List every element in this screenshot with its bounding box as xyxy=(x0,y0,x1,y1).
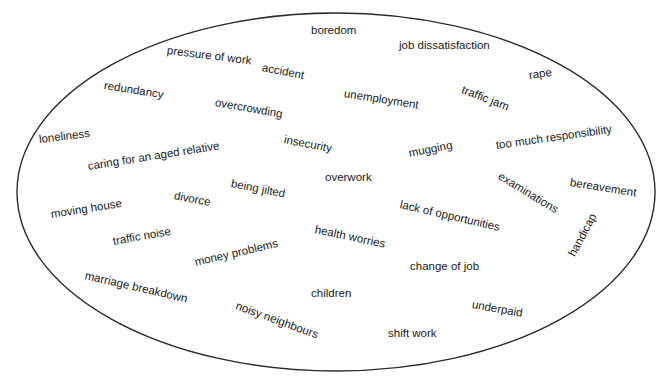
ellipse-outline xyxy=(0,0,671,383)
stress-label: change of job xyxy=(410,261,479,273)
stress-causes-diagram: boredompressure of workjob dissatisfacti… xyxy=(0,0,671,383)
stress-label: overwork xyxy=(325,172,372,184)
ellipse-shape xyxy=(17,13,655,371)
stress-label: children xyxy=(311,288,351,300)
stress-label: boredom xyxy=(311,25,356,37)
stress-label: job dissatisfaction xyxy=(399,40,490,52)
stress-label: shift work xyxy=(388,328,437,340)
